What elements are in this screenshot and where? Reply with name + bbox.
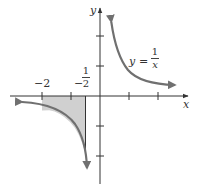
function-plot: [0, 0, 201, 189]
tick-label-neg-half-fraction: 1 2: [82, 66, 90, 89]
tick-label-neg2: −2: [34, 78, 50, 89]
curve-right-branch: [111, 22, 175, 85]
curve-label-fraction: 1 x: [151, 47, 159, 70]
curve-label-lhs: y: [129, 56, 135, 67]
tick-label-neg-half-denominator: 2: [83, 79, 89, 89]
curve-label-equals: =: [139, 56, 148, 67]
x-axis-label: x: [183, 99, 189, 110]
y-axis-label: y: [90, 5, 96, 16]
curve-label-numerator: 1: [152, 47, 158, 57]
curve-label-denominator: x: [152, 60, 158, 70]
tick-label-neg-half-numerator: 1: [83, 66, 89, 76]
shaded-area: [42, 96, 86, 154]
